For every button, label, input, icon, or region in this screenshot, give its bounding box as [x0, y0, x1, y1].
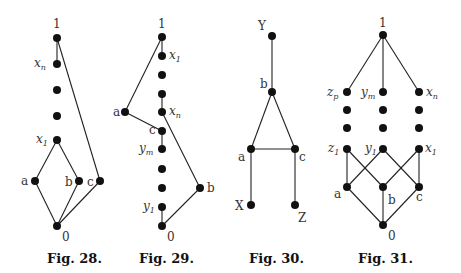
label-xn: xn [426, 85, 438, 101]
edge-b-0 [162, 188, 200, 226]
edge-1-zp [347, 35, 383, 92]
label-1: 1 [158, 17, 166, 31]
node-b [75, 177, 83, 185]
figure-caption: Fig. 28. [47, 251, 102, 266]
figure-30: Y b a c X Z Fig. 30. [235, 19, 306, 266]
node-a [31, 177, 39, 185]
node-1 [53, 34, 61, 42]
edges [251, 36, 295, 205]
label-c: c [87, 175, 94, 189]
edge-a-0 [35, 181, 57, 226]
label-0: 0 [62, 230, 70, 244]
label-a: a [21, 174, 28, 188]
figure-29: 1 x1 xn a c ym y1 b 0 Fig. 29. [113, 17, 215, 266]
node-ellipsis [379, 106, 387, 114]
node-xn [53, 60, 61, 68]
lattice-diagrams: 1 xn x1 a b c 0 Fig. 28. [0, 0, 461, 273]
node-ellipsis [415, 124, 423, 132]
node-X [247, 201, 255, 209]
edge-xn-b [162, 112, 200, 188]
node-x1 [415, 145, 423, 153]
edge-1-c [57, 38, 100, 181]
node-ellipsis [53, 86, 61, 94]
node-1 [158, 33, 166, 41]
figure-caption: Fig. 30. [249, 251, 304, 266]
label-b: b [388, 193, 396, 207]
label-b: b [65, 175, 73, 189]
label-0: 0 [167, 230, 175, 244]
label-xn: xn [169, 104, 181, 120]
label-c: c [416, 190, 423, 204]
edge-a-0 [347, 187, 383, 225]
node-0 [53, 222, 61, 230]
label-x1: x1 [36, 132, 48, 148]
label-0: 0 [388, 229, 396, 243]
node-b [196, 184, 204, 192]
node-ellipsis [158, 90, 166, 98]
node-x1 [53, 136, 61, 144]
label-a: a [334, 187, 341, 201]
edge-1-xn [383, 35, 419, 92]
node-0 [379, 221, 387, 229]
edge-b-a [251, 92, 272, 149]
node-ellipsis [343, 124, 351, 132]
label-y1: y1 [142, 199, 155, 215]
node-Y [268, 32, 276, 40]
edge-1-a [125, 37, 162, 112]
labels: Y b a c X Z [235, 19, 306, 225]
figure-31: 1 zp ym xn z1 y1 x1 a b c 0 Fig. 31. [326, 16, 438, 266]
node-ellipsis [415, 106, 423, 114]
label-a: a [238, 150, 245, 164]
label-a: a [113, 105, 120, 119]
node-xn [158, 108, 166, 116]
label-ym: ym [360, 85, 376, 101]
label-Z: Z [298, 211, 306, 225]
node-b [379, 183, 387, 191]
label-1: 1 [379, 16, 387, 30]
node-xn [415, 88, 423, 96]
node-1 [379, 31, 387, 39]
edge-b-c [272, 92, 295, 149]
node-ellipsis [379, 124, 387, 132]
node-c [158, 127, 166, 135]
label-1: 1 [53, 17, 61, 31]
label-y1: y1 [364, 141, 377, 157]
edge-a-c [125, 112, 162, 131]
figure-28: 1 xn x1 a b c 0 Fig. 28. [21, 17, 104, 266]
label-c: c [299, 150, 306, 164]
node-zp [343, 88, 351, 96]
node-Z [291, 201, 299, 209]
nodes [247, 32, 299, 209]
node-ellipsis [158, 71, 166, 79]
node-z1 [343, 145, 351, 153]
label-c: c [149, 123, 156, 137]
node-ellipsis [158, 165, 166, 173]
label-xn: xn [34, 56, 46, 72]
label-ym: ym [138, 141, 154, 157]
label-zp: zp [326, 85, 338, 101]
node-ym [158, 145, 166, 153]
label-z1: z1 [327, 141, 339, 157]
node-b [268, 88, 276, 96]
label-x1: x1 [425, 141, 437, 157]
node-0 [158, 222, 166, 230]
node-ym [379, 88, 387, 96]
node-ellipsis [53, 112, 61, 120]
node-y1 [158, 203, 166, 211]
label-b: b [207, 181, 215, 195]
label-b: b [260, 77, 268, 91]
node-ellipsis [158, 184, 166, 192]
node-a [121, 108, 129, 116]
node-y1 [379, 145, 387, 153]
node-a [343, 183, 351, 191]
figure-caption: Fig. 29. [139, 251, 194, 266]
node-c [96, 177, 104, 185]
node-a [247, 145, 255, 153]
node-c [291, 145, 299, 153]
figure-caption: Fig. 31. [358, 251, 413, 266]
nodes [121, 33, 204, 230]
node-x1 [158, 52, 166, 60]
label-x1: x1 [169, 48, 181, 64]
label-X: X [235, 199, 244, 213]
label-Y: Y [257, 19, 267, 33]
